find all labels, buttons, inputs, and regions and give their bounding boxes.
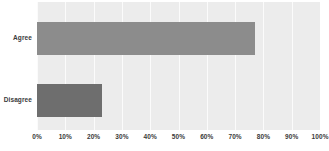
value-axis-tick-10%: 10% [59, 134, 72, 141]
plot-area [37, 2, 320, 130]
value-axis: 0%10%20%30%40%50%60%70%80%90%100% [37, 134, 320, 146]
bar-series [37, 2, 320, 130]
value-axis-tick-40%: 40% [144, 134, 157, 141]
value-axis-tick-0%: 0% [32, 134, 42, 141]
category-axis-label-disagree: Disagree [4, 97, 32, 104]
value-axis-tick-50%: 50% [172, 134, 185, 141]
value-axis-tick-90%: 90% [285, 134, 298, 141]
value-axis-tick-20%: 20% [87, 134, 100, 141]
value-axis-tick-70%: 70% [228, 134, 241, 141]
bar-agree [37, 22, 255, 55]
bar-disagree [37, 84, 102, 117]
category-axis: Agree Disagree [0, 0, 35, 130]
value-axis-tick-30%: 30% [115, 134, 128, 141]
value-axis-tick-60%: 60% [200, 134, 213, 141]
category-axis-label-agree: Agree [13, 35, 32, 42]
value-axis-tick-80%: 80% [257, 134, 270, 141]
bar-chart: Agree Disagree 0%10%20%30%40%50%60%70%80… [0, 0, 329, 151]
value-axis-tick-100%: 100% [311, 134, 328, 141]
